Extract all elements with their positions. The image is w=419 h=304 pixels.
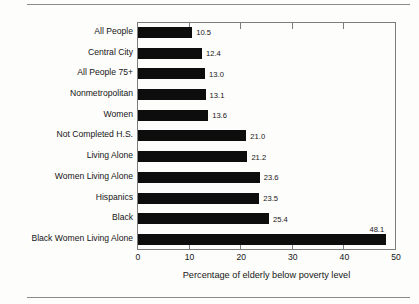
- bar: [138, 213, 269, 224]
- category-label: Black Women Living Alone: [0, 233, 133, 244]
- category-label: Nonmetropolitan: [0, 88, 133, 99]
- x-tick-label: 0: [123, 252, 153, 263]
- bar-row: All People10.5: [0, 22, 419, 43]
- bar: [138, 68, 205, 79]
- bar-value-label: 13.6: [212, 111, 227, 121]
- bar-row: Central City12.4: [0, 43, 419, 64]
- category-label: Not Completed H.S.: [0, 129, 133, 140]
- bar-value-label: 25.4: [273, 215, 288, 225]
- x-tick-label: 20: [226, 252, 256, 263]
- category-label: Women: [0, 109, 133, 120]
- bar-value-label: 12.4: [206, 49, 221, 59]
- category-label: All People: [0, 26, 133, 37]
- x-tick-label: 10: [175, 252, 205, 263]
- bar: [138, 48, 202, 59]
- bar: [138, 89, 206, 100]
- x-tick-label: 50: [381, 252, 411, 263]
- bar-row: Women13.6: [0, 105, 419, 126]
- bar: [138, 172, 260, 183]
- bar-row: Not Completed H.S.21.0: [0, 126, 419, 147]
- category-label: Hispanics: [0, 192, 133, 203]
- bar: [138, 27, 192, 38]
- bar: [138, 151, 247, 162]
- bar-rows: All People10.5Central City12.4All People…: [0, 22, 419, 250]
- bar-row: Black25.4: [0, 209, 419, 230]
- bottom-divider-rule: [27, 297, 410, 298]
- category-label: Living Alone: [0, 150, 133, 161]
- bar-value-label: 10.5: [196, 28, 211, 38]
- top-divider-rule: [27, 4, 410, 5]
- bar-value-label: 13.1: [210, 91, 225, 101]
- bar: [138, 130, 246, 141]
- bar-row: All People 75+13.0: [0, 63, 419, 84]
- bar: [138, 193, 259, 204]
- chart-page: All People10.5Central City12.4All People…: [0, 0, 419, 304]
- category-label: All People 75+: [0, 67, 133, 78]
- x-tick-label: 40: [329, 252, 359, 263]
- bar-row: Nonmetropolitan13.1: [0, 84, 419, 105]
- bar-row: Black Women Living Alone48.1: [0, 229, 419, 250]
- bar-value-label: 23.6: [264, 173, 279, 183]
- x-axis-title: Percentage of elderly below poverty leve…: [137, 270, 396, 280]
- bar-row: Living Alone21.2: [0, 146, 419, 167]
- bar-value-label: 21.2: [251, 153, 266, 163]
- bar-row: Women Living Alone23.6: [0, 167, 419, 188]
- bar-value-label: 21.0: [250, 132, 265, 142]
- x-tick-label: 30: [278, 252, 308, 263]
- bar-value-label: 48.1: [362, 225, 384, 235]
- category-label: Women Living Alone: [0, 171, 133, 182]
- bar-value-label: 23.5: [263, 194, 278, 204]
- bar: [138, 234, 386, 245]
- category-label: Black: [0, 212, 133, 223]
- category-label: Central City: [0, 47, 133, 58]
- bar-row: Hispanics23.5: [0, 188, 419, 209]
- bar: [138, 110, 208, 121]
- bar-value-label: 13.0: [209, 70, 224, 80]
